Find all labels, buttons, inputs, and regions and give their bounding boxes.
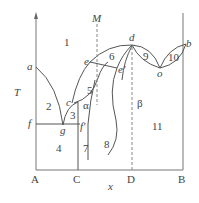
region-5: 5 (87, 84, 93, 96)
point-g: g (60, 124, 66, 136)
region-4: 4 (56, 142, 62, 154)
region-11: 11 (152, 120, 163, 132)
label-D: D (127, 173, 135, 185)
label-A: A (31, 173, 39, 185)
phase-alpha: α (83, 99, 89, 111)
point-e-prime: e' (118, 63, 126, 75)
point-f-prime: f' (80, 120, 86, 132)
label-T: T (14, 86, 21, 98)
curve-c-e-left (72, 62, 90, 103)
liquidus-a-g (36, 67, 63, 125)
label-M: M (91, 12, 102, 24)
phase-diagram: T x M A C D B a b c d e e' f f' g o 1 2 … (0, 0, 199, 203)
region-8: 8 (104, 138, 110, 150)
region-2: 2 (46, 100, 52, 112)
label-x: x (107, 180, 113, 192)
phase-beta: β (137, 97, 143, 109)
region-6: 6 (109, 50, 115, 62)
region-7: 7 (83, 142, 89, 154)
point-b: b (186, 37, 192, 49)
point-d: d (129, 31, 135, 43)
point-a: a (27, 60, 33, 72)
point-f: f (28, 117, 33, 129)
region-10: 10 (168, 51, 180, 63)
region-1: 1 (64, 36, 70, 48)
t-axis-arrow-icon (34, 12, 38, 19)
label-B: B (178, 173, 185, 185)
point-o: o (157, 67, 163, 79)
point-c: c (66, 96, 71, 108)
region-3: 3 (70, 109, 76, 121)
region-9: 9 (143, 50, 149, 62)
label-C: C (73, 173, 80, 185)
point-e: e (84, 55, 89, 67)
